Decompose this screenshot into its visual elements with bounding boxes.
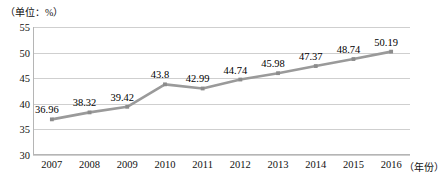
x-axis-tick-label: 2007	[41, 159, 62, 170]
data-point-label: 47.37	[299, 51, 323, 62]
data-point-marker	[238, 78, 242, 82]
data-point-label: 50.19	[374, 37, 398, 48]
x-axis-tick-label: 2011	[192, 159, 213, 170]
x-axis-unit-label: （年份）	[404, 159, 442, 174]
gridline	[33, 155, 410, 156]
data-point-label: 36.96	[35, 104, 59, 115]
x-axis-tick-label: 2009	[117, 159, 138, 170]
data-point-label: 48.74	[337, 44, 361, 55]
y-axis-tick-label: 55	[4, 22, 30, 33]
y-axis-unit-label: （单位：%）	[5, 4, 63, 19]
data-point-marker	[276, 71, 280, 75]
x-axis-tick-label: 2010	[154, 159, 175, 170]
x-axis-tick-label: 2015	[343, 159, 364, 170]
x-axis-tick-label: 2013	[268, 159, 289, 170]
y-axis: 303540455055	[0, 27, 30, 155]
y-axis-tick-label: 50	[4, 47, 30, 58]
data-point-marker	[163, 82, 167, 86]
x-axis-tick-label: 2008	[79, 159, 100, 170]
data-point-label: 39.42	[110, 92, 134, 103]
data-point-marker	[389, 50, 393, 54]
x-axis: 2007200820092010201120122013201420152016	[33, 159, 410, 175]
x-axis-tick-label: 2012	[230, 159, 251, 170]
data-point-marker	[314, 64, 318, 68]
y-axis-tick-label: 40	[4, 98, 30, 109]
data-point-marker	[352, 57, 356, 61]
data-point-marker	[125, 105, 129, 109]
data-point-marker	[88, 111, 92, 115]
data-point-label: 43.8	[151, 69, 169, 80]
data-point-marker	[201, 87, 205, 91]
y-axis-tick-label: 35	[4, 124, 30, 135]
data-point-label: 45.98	[261, 58, 285, 69]
data-point-label: 38.32	[73, 97, 97, 108]
y-axis-tick-label: 45	[4, 73, 30, 84]
y-axis-tick-label: 30	[4, 150, 30, 161]
x-axis-tick-label: 2016	[381, 159, 402, 170]
data-point-label: 44.74	[224, 65, 248, 76]
series-polyline	[52, 52, 391, 120]
plot-area: 36.9638.3239.4243.842.9944.7445.9847.374…	[33, 27, 410, 155]
data-point-marker	[50, 117, 54, 121]
data-point-label: 42.99	[186, 73, 210, 84]
x-axis-tick-label: 2014	[305, 159, 326, 170]
